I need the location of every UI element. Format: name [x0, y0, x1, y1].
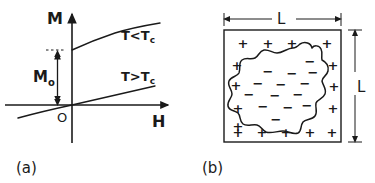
curve-lower-label-main: T>T: [121, 69, 150, 84]
plus-sign: +: [281, 125, 292, 140]
plus-sign: +: [328, 58, 339, 73]
plus-sign: +: [287, 36, 298, 51]
minus-sign: −: [283, 100, 294, 115]
physics-figure-svg: M H O Mo T<Tc T>Tc (a) L L: [0, 0, 375, 183]
h-axis-label: H: [152, 112, 165, 131]
minus-sign: −: [244, 87, 255, 102]
plus-sign: +: [327, 125, 338, 140]
height-label: L: [357, 78, 366, 96]
plus-sign: +: [263, 36, 274, 51]
figure-container: M H O Mo T<Tc T>Tc (a) L L: [0, 0, 375, 183]
minus-sign: −: [258, 99, 269, 114]
m-zero-main: M: [33, 68, 48, 86]
plus-sign: +: [233, 101, 244, 116]
curve-upper-label: T<Tc: [121, 28, 155, 45]
minus-sign: −: [302, 98, 313, 113]
m-axis-label: M: [47, 9, 63, 28]
caption-a: (a): [16, 159, 37, 177]
plus-sign: +: [328, 101, 339, 116]
panel-a: M H O Mo T<Tc T>Tc (a): [5, 9, 168, 177]
m-zero-sub: o: [48, 77, 55, 88]
plus-sign: +: [305, 125, 316, 140]
curve-lower-label-sub: c: [150, 76, 155, 86]
curve-t-greater-tc: [18, 86, 155, 118]
plus-sign: +: [257, 125, 268, 140]
panel-b: L L + + + + + + + + + + + + + + + +: [202, 10, 366, 177]
spontaneous-magnetization-label: Mo: [33, 68, 55, 88]
minus-sign: −: [270, 88, 281, 103]
plus-sign: +: [233, 125, 244, 140]
negative-charges-group: − − − − − − − − − − − − − −: [244, 54, 319, 127]
minus-sign: −: [263, 64, 274, 79]
minus-sign: −: [287, 66, 298, 81]
width-label: L: [277, 10, 286, 28]
curve-upper-label-sub: c: [150, 35, 155, 45]
plus-sign: +: [231, 78, 242, 93]
plus-sign: +: [322, 36, 333, 51]
m-zero-arrow-up-head: [54, 50, 61, 57]
plus-sign: +: [232, 58, 243, 73]
curve-upper-label-main: T<T: [121, 28, 150, 43]
origin-label: O: [57, 110, 67, 125]
curve-lower-label: T>Tc: [121, 69, 155, 86]
minus-sign: −: [271, 112, 282, 127]
caption-b: (b): [202, 159, 223, 177]
plus-sign: +: [238, 36, 249, 51]
plus-sign: +: [329, 79, 340, 94]
